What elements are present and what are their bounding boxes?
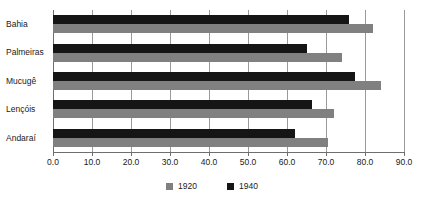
x-tick-label-0.0: 0.0 — [47, 158, 59, 167]
category-label-mucuge: Mucugê — [0, 67, 50, 95]
bar-1920-palmeiras — [53, 53, 342, 62]
bar-1940-palmeiras — [53, 44, 307, 53]
category-label-bahia: Bahia — [0, 10, 50, 38]
bar-group-lençóis — [53, 95, 404, 123]
bar-groups — [53, 10, 404, 152]
x-tick-label-60.0: 60.0 — [279, 158, 296, 167]
x-tick-label-30.0: 30.0 — [162, 158, 179, 167]
x-tick-label-50.0: 50.0 — [240, 158, 257, 167]
category-label-andarai: Andaraí — [0, 124, 50, 152]
legend-label-1920: 1920 — [178, 182, 197, 191]
category-label-lencois: Lençóis — [0, 95, 50, 123]
bar-1940-mucugê — [53, 72, 355, 81]
chart-legend: 1920 1940 — [0, 182, 424, 191]
bar-1920-lençóis — [53, 109, 334, 118]
category-label-palmeiras: Palmeiras — [0, 38, 50, 66]
x-tick-90.0 — [404, 152, 405, 156]
bar-1920-andaraí — [53, 138, 328, 147]
x-axis-tick-labels: 0.010.020.030.040.050.060.070.080.090.0 — [0, 158, 424, 172]
bar-1940-lençóis — [53, 100, 312, 109]
bar-group-andaraí — [53, 124, 404, 152]
bar-group-palmeiras — [53, 38, 404, 66]
legend-item-1920: 1920 — [166, 182, 197, 191]
x-tick-label-40.0: 40.0 — [201, 158, 218, 167]
plot-area — [53, 10, 404, 152]
bar-1920-bahia — [53, 24, 373, 33]
x-axis-line — [53, 152, 404, 153]
bar-group-mucugê — [53, 67, 404, 95]
x-tick-label-90.0: 90.0 — [396, 158, 413, 167]
category-axis-labels: Bahia Palmeiras Mucugê Lençóis Andaraí — [0, 10, 50, 152]
bar-chart: Bahia Palmeiras Mucugê Lençóis Andaraí 0… — [0, 0, 424, 207]
bar-1920-mucugê — [53, 81, 381, 90]
bar-1940-bahia — [53, 15, 349, 24]
x-tick-label-80.0: 80.0 — [357, 158, 374, 167]
legend-label-1940: 1940 — [239, 182, 258, 191]
legend-swatch-1920 — [166, 183, 173, 190]
bar-group-bahia — [53, 10, 404, 38]
x-tick-label-20.0: 20.0 — [123, 158, 140, 167]
x-tick-label-10.0: 10.0 — [84, 158, 101, 167]
legend-item-1940: 1940 — [227, 182, 258, 191]
x-tick-label-70.0: 70.0 — [318, 158, 335, 167]
legend-swatch-1940 — [227, 183, 234, 190]
bar-1940-andaraí — [53, 129, 295, 138]
gridline-90.0 — [404, 10, 405, 152]
